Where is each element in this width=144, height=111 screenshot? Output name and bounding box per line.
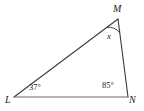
vertex-label-M: M bbox=[113, 4, 121, 14]
angle-measure-at-N: 85° bbox=[102, 81, 114, 90]
angle-measure-at-M-unknown: x bbox=[107, 32, 111, 41]
vertex-label-L: L bbox=[5, 95, 11, 105]
geometry-figure: M L N 37° 85° x bbox=[0, 0, 144, 111]
triangle-drawing bbox=[0, 0, 144, 111]
side-MN bbox=[118, 19, 128, 97]
angle-measure-at-L: 37° bbox=[29, 83, 41, 92]
vertex-label-N: N bbox=[129, 95, 136, 105]
